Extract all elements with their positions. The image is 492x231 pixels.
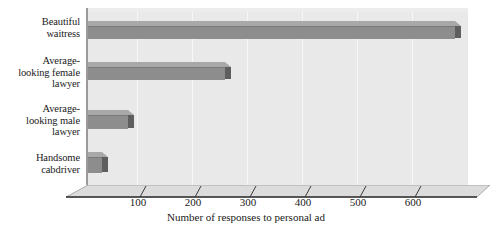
- bar-average-looking-female-lawyer: [88, 62, 225, 79]
- x-tick-label-200: 200: [173, 196, 213, 208]
- category-label-beautiful-waitress: Beautiful waitress: [0, 16, 80, 39]
- category-label-line: lawyer: [0, 78, 80, 90]
- x-tick-label-300: 300: [228, 196, 268, 208]
- bar-beautiful-waitress: [88, 21, 455, 38]
- category-label-line: waitress: [0, 28, 80, 40]
- category-label-line: Handsome: [0, 152, 80, 164]
- bar-average-looking-male-lawyer: [88, 110, 128, 128]
- category-label-line: lawyer: [0, 126, 80, 138]
- x-tick-label-100: 100: [118, 196, 158, 208]
- category-label-average-looking-female-lawyer: Average- looking female lawyer: [0, 55, 80, 90]
- bar-chart: Beautiful waitress Average- looking fema…: [0, 0, 492, 231]
- category-label-line: looking male: [0, 115, 80, 127]
- category-label-average-looking-male-lawyer: Average- looking male lawyer: [0, 103, 80, 138]
- category-label-handsome-cabdriver: Handsome cabdriver: [0, 152, 80, 175]
- x-tick-label-400: 400: [283, 196, 323, 208]
- category-label-line: Average-: [0, 55, 80, 67]
- category-label-line: Average-: [0, 103, 80, 115]
- category-label-line: cabdriver: [0, 164, 80, 176]
- x-tick-label-500: 500: [338, 196, 378, 208]
- category-label-line: Beautiful: [0, 16, 80, 28]
- x-tick-label-600: 600: [393, 196, 433, 208]
- category-label-line: looking female: [0, 67, 80, 79]
- x-axis-title: Number of responses to personal ad: [0, 211, 492, 223]
- plot-top-edge: [88, 8, 468, 12]
- bar-handsome-cabdriver: [88, 152, 102, 172]
